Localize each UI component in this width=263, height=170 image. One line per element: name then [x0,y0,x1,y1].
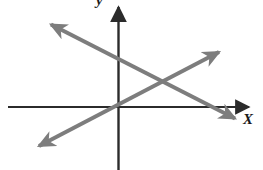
coordinate-plane-svg [0,0,263,170]
y-axis-label: y [96,0,103,8]
graph-figure: y X [0,0,263,170]
descending-line [51,25,235,119]
x-axis-label: X [243,112,253,127]
